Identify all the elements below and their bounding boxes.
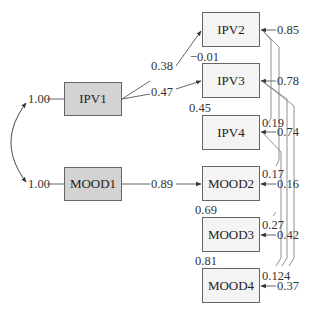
errcov-mood4: 0.124 [262,270,290,283]
covariance-arrow [11,103,26,182]
label-mood2-mood3: 0.69 [195,204,217,217]
node-label: MOOD2 [208,176,254,192]
node-mood2: MOOD2 [202,166,260,201]
node-ipv4: IPV4 [202,115,260,150]
node-label: MOOD1 [70,176,116,192]
errcov-mood3: 0.27 [262,219,284,232]
errcov-ipv4: 0.19 [262,117,284,130]
node-ipv1: IPV1 [64,82,122,116]
coef-mood1-mood2: 0.89 [151,178,173,191]
label-ipv3-ipv4: 0.45 [189,102,211,115]
node-mood1: MOOD1 [64,167,122,201]
node-label: MOOD4 [208,278,254,294]
error-ipv2: 0.85 [277,24,299,37]
label-mood3-mood4: 0.81 [195,255,217,268]
node-ipv3: IPV3 [202,63,260,98]
node-label: IPV2 [217,22,244,38]
label-ipv2-ipv3: −0.01 [190,51,219,64]
coef-ipv1-ipv3: 0.47 [151,86,173,99]
node-label: MOOD3 [208,227,254,243]
node-label: IPV4 [217,125,244,141]
error-ipv3: 0.78 [277,75,299,88]
node-mood4: MOOD4 [202,268,260,303]
coef-ipv1-ipv2: 0.38 [151,60,173,73]
variance-ipv1: 1.00 [28,93,50,106]
node-mood3: MOOD3 [202,217,260,252]
node-label: IPV3 [217,73,244,89]
errcov-mood2: 0.17 [262,168,284,181]
node-ipv2: IPV2 [202,12,260,47]
node-label: IPV1 [79,91,106,107]
variance-mood1: 1.00 [28,178,50,191]
